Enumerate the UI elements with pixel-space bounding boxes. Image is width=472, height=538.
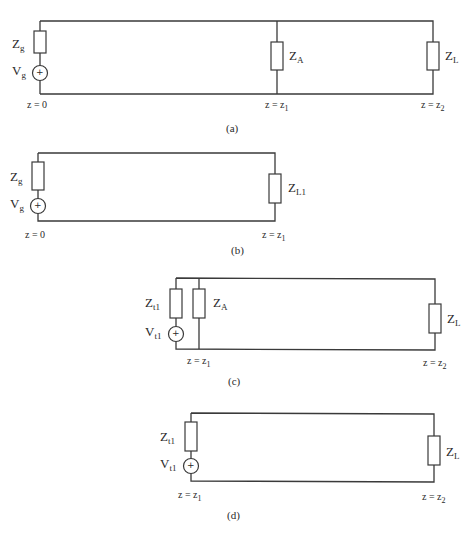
transmission-line-diagrams: + Zg Vg ZA ZL z = 0 z = z1 z = z2 (a) + … — [0, 0, 472, 538]
figure-d-zt1-resistor-icon — [185, 422, 197, 451]
figure-a-circuit — [33, 21, 440, 94]
figure-d-zl-resistor-icon — [428, 436, 440, 465]
figure-c-za-label: ZA — [213, 296, 227, 309]
figure-a-position-z1: z = z1 — [265, 100, 289, 110]
figure-b-line — [38, 153, 275, 221]
figure-a-za-resistor-icon — [271, 42, 283, 70]
figure-b-circuit — [31, 153, 282, 221]
figure-d-caption: (d) — [227, 510, 240, 521]
figure-c-za-resistor-icon — [193, 289, 205, 318]
figure-a-zl-resistor-icon — [427, 42, 439, 70]
figure-d-position-z2: z = z2 — [422, 492, 446, 502]
figure-a-top-line — [40, 21, 433, 94]
figure-c-circuit — [169, 278, 442, 350]
figure-a-position-z2: z = z2 — [421, 100, 445, 110]
figure-b-plus-icon: + — [34, 201, 42, 210]
figure-c-zt1-label: Zt1 — [145, 296, 160, 309]
figure-d-circuit — [184, 413, 441, 482]
figure-d-position-z1: z = z1 — [178, 490, 202, 500]
figure-a-zg-label: Zg — [12, 37, 24, 50]
figure-d-vt1-label: Vt1 — [160, 457, 176, 470]
figure-d-plus-icon: + — [187, 461, 195, 470]
figure-d-line — [191, 413, 434, 482]
figure-a-vg-label: Vg — [12, 64, 26, 77]
figure-c-zl-label: ZL — [447, 312, 460, 325]
figure-c-zt1-resistor-icon — [170, 289, 182, 318]
figure-b-zg-label: Zg — [10, 170, 22, 183]
figure-a-plus-icon: + — [36, 68, 44, 77]
figure-c-position-z2: z = z2 — [423, 358, 447, 368]
figure-b-zl1-resistor-icon — [269, 174, 281, 203]
figure-a-zg-resistor-icon — [34, 31, 46, 53]
figure-c-plus-icon: + — [172, 329, 180, 338]
figure-a-position-0: z = 0 — [27, 100, 47, 110]
figure-a-za-label: ZA — [289, 49, 303, 62]
figure-c-line — [176, 278, 435, 350]
figure-b-zl1-label: ZL1 — [288, 181, 306, 194]
figure-c-vt1-label: Vt1 — [145, 325, 161, 338]
figure-b-caption: (b) — [231, 245, 244, 256]
figure-b-vg-label: Vg — [10, 197, 24, 210]
figure-a-zl-label: ZL — [445, 49, 458, 62]
figure-d-zt1-label: Zt1 — [160, 430, 175, 443]
figure-c-caption: (c) — [228, 376, 240, 387]
circuit-drawing — [0, 0, 472, 538]
figure-b-position-0: z = 0 — [25, 230, 45, 240]
figure-b-zg-resistor-icon — [32, 162, 44, 190]
figure-d-zl-label: ZL — [446, 445, 459, 458]
figure-a-caption: (a) — [226, 123, 238, 134]
figure-c-zl-resistor-icon — [429, 304, 441, 333]
figure-c-position-z1: z = z1 — [187, 356, 211, 366]
figure-b-position-z1: z = z1 — [262, 230, 286, 240]
